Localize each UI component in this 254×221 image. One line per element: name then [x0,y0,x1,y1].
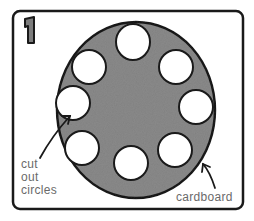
hole-bottom-left [65,131,99,165]
cut-out-circles-label: cut out circles [21,158,57,197]
hole-right [179,90,213,124]
arrow-to-disc-edge-icon [202,164,215,188]
label-line-3: circles [21,184,57,197]
hole-bottom [114,146,148,180]
hole-bottom-right [158,133,192,167]
hole-top [116,24,150,60]
step-number-one-icon [25,17,34,43]
hole-top-right [159,50,193,84]
cardboard-label: cardboard [176,191,233,204]
hole-left [56,86,90,120]
hole-top-left [72,50,106,84]
